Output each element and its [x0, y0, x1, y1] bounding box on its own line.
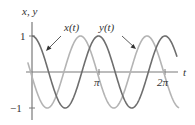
x-tick-label-2pi: 2π — [157, 76, 169, 88]
y-tick-label-neg1: −1 — [10, 102, 22, 114]
y-tick-label-1: 1 — [20, 30, 26, 42]
parametric-chart: x, y t 1 −1 π 2π x(t) y(t) — [0, 0, 195, 125]
legend-y-t: y(t) — [98, 21, 115, 34]
legend-x-t: x(t) — [63, 21, 80, 34]
arrow-y-t — [122, 36, 134, 47]
x-axis-label: t — [183, 66, 187, 78]
y-axis-label: x, y — [21, 5, 37, 17]
x-tick-label-pi: π — [94, 76, 100, 88]
arrow-x-t — [48, 36, 61, 49]
